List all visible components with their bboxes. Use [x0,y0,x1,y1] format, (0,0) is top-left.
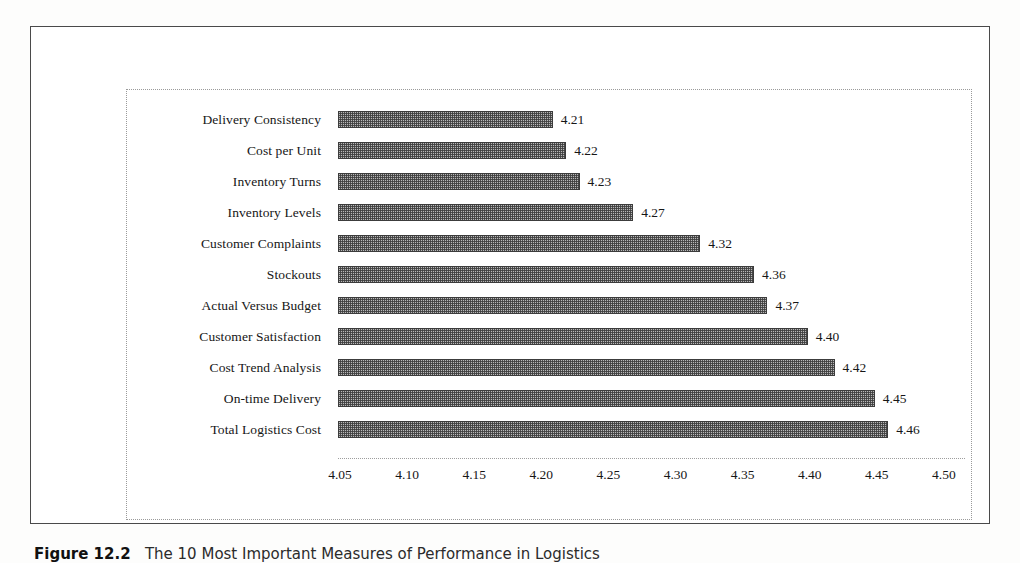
chart-plot-area: Delivery Consistency4.21Cost per Unit4.2… [126,89,972,520]
x-axis-tick-labels: 4.054.104.154.204.254.304.354.404.454.50 [127,468,971,488]
figure-caption-text: The 10 Most Important Measures of Perfor… [131,545,600,563]
x-tick-label: 4.50 [932,468,956,482]
x-tick-label: 4.10 [395,468,419,482]
bar [338,173,580,190]
x-tick-label: 4.45 [865,468,889,482]
bar-value-label: 4.46 [896,423,920,437]
bar-category-label: Cost per Unit [247,144,321,158]
x-tick-label: 4.15 [462,468,486,482]
bar [338,204,633,221]
bar-value-label: 4.27 [641,206,665,220]
x-tick-label: 4.05 [328,468,352,482]
bar-track: 4.22 [338,142,971,159]
bar-row: Cost Trend Analysis4.42 [127,359,971,376]
bar-track: 4.40 [338,328,971,345]
bar-track: 4.36 [338,266,971,283]
bar [338,390,875,407]
bar-category-label: Actual Versus Budget [202,299,322,313]
bar-row: Actual Versus Budget4.37 [127,297,971,314]
bar-category-label: Stockouts [267,268,321,282]
bar-category-label: Inventory Turns [233,175,321,189]
bar [338,421,888,438]
x-tick-label: 4.40 [798,468,822,482]
bar [338,328,808,345]
bar-value-label: 4.21 [561,113,585,127]
bar-row: Inventory Levels4.27 [127,204,971,221]
bar-value-label: 4.37 [775,299,799,313]
figure-outer-frame: Delivery Consistency4.21Cost per Unit4.2… [30,26,990,524]
bar-value-label: 4.45 [883,392,907,406]
bar [338,359,835,376]
bar-track: 4.21 [338,111,971,128]
bar [338,266,754,283]
bar-value-label: 4.22 [574,144,598,158]
x-tick-label: 4.20 [529,468,553,482]
bar-track: 4.46 [338,421,971,438]
bar-value-label: 4.23 [588,175,612,189]
bar [338,142,566,159]
bar-value-label: 4.32 [708,237,732,251]
bar-chart: Delivery Consistency4.21Cost per Unit4.2… [127,90,971,519]
x-tick-label: 4.35 [731,468,755,482]
bar-track: 4.32 [338,235,971,252]
page-background: Delivery Consistency4.21Cost per Unit4.2… [0,0,1020,563]
bar-value-label: 4.42 [843,361,867,375]
bar-row: Stockouts4.36 [127,266,971,283]
bar-category-label: Cost Trend Analysis [210,361,321,375]
bar-track: 4.45 [338,390,971,407]
bar-category-label: Delivery Consistency [202,113,321,127]
bar-track: 4.23 [338,173,971,190]
bar-category-label: Customer Satisfaction [199,330,321,344]
bar-category-label: Inventory Levels [228,206,321,220]
x-tick-label: 4.30 [664,468,688,482]
bar-value-label: 4.36 [762,268,786,282]
figure-caption: Figure 12.2 The 10 Most Important Measur… [34,545,984,563]
bar [338,235,700,252]
bar-track: 4.42 [338,359,971,376]
bar-track: 4.37 [338,297,971,314]
bar-row: Customer Complaints4.32 [127,235,971,252]
bar-track: 4.27 [338,204,971,221]
bar-category-label: On-time Delivery [224,392,321,406]
figure-caption-label: Figure 12.2 [34,545,131,563]
bar-row: On-time Delivery4.45 [127,390,971,407]
bar [338,297,767,314]
x-axis-line [338,458,965,459]
bar-row: Delivery Consistency4.21 [127,111,971,128]
bar-row: Customer Satisfaction4.40 [127,328,971,345]
x-tick-label: 4.25 [597,468,621,482]
bar-row: Cost per Unit4.22 [127,142,971,159]
bar-category-label: Customer Complaints [201,237,321,251]
bar-row: Inventory Turns4.23 [127,173,971,190]
bar-row: Total Logistics Cost4.46 [127,421,971,438]
bar [338,111,553,128]
bar-value-label: 4.40 [816,330,840,344]
bar-category-label: Total Logistics Cost [210,423,321,437]
